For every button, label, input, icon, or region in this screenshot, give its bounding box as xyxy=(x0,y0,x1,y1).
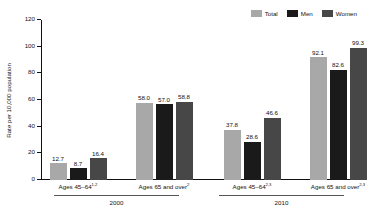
bar-value-label: 58.8 xyxy=(178,93,190,100)
category-label: Ages 65 and over2,3 xyxy=(302,182,371,193)
legend-label-men: Men xyxy=(301,10,313,17)
plot-area: 020406080100120 12.78.716.458.057.058.83… xyxy=(41,20,355,180)
bar-slot: 37.8 xyxy=(224,20,241,180)
bar-value-label: 99.3 xyxy=(352,39,364,46)
legend-label-total: Total xyxy=(265,10,278,17)
legend-entry-men: Men xyxy=(287,10,313,17)
bar-group: 58.057.058.8 xyxy=(128,20,200,180)
bar-slot: 57.0 xyxy=(156,20,173,180)
cat-period-2000: Ages 45–641,2Ages 65 and over2 xyxy=(42,182,200,193)
bar-group: 37.828.646.6 xyxy=(216,20,288,180)
y-axis-title-wrap: Rate per 10,000 population xyxy=(2,20,14,180)
bar-slot: 82.6 xyxy=(330,20,347,180)
bar-value-label: 57.0 xyxy=(158,96,170,103)
bar-women[interactable] xyxy=(90,158,107,180)
y-tick-label-40: 40 xyxy=(28,122,35,129)
period-name: 2010 xyxy=(275,199,289,207)
period-block-2000: 2000 xyxy=(42,195,191,215)
bar-slot: 92.1 xyxy=(310,20,327,180)
category-footnote-marker: 2,3 xyxy=(359,182,365,187)
legend-swatch-men xyxy=(287,10,298,17)
bar-groups: 12.78.716.458.057.058.837.828.646.692.18… xyxy=(42,20,355,180)
legend-swatch-women xyxy=(322,10,333,17)
y-tick-label-60: 60 xyxy=(28,95,35,102)
y-axis-title: Rate per 10,000 population xyxy=(5,63,12,138)
bar-value-label: 8.7 xyxy=(74,160,83,167)
y-tick-60: 60 xyxy=(37,99,41,100)
bar-value-label: 37.8 xyxy=(226,121,238,128)
bar-value-label: 82.6 xyxy=(332,61,344,68)
bar-women[interactable] xyxy=(264,118,281,180)
bar-slot: 99.3 xyxy=(350,20,367,180)
bar-slot: 46.6 xyxy=(264,20,281,180)
category-label: Ages 45–641,2 xyxy=(42,182,114,193)
cat-period-2010: Ages 45–642,3Ages 65 and over2,3 xyxy=(216,182,371,193)
category-footnote-marker: 2 xyxy=(187,182,189,187)
category-footnote-marker: 2,3 xyxy=(266,182,272,187)
bar-group: 12.78.716.4 xyxy=(42,20,114,180)
bar-women[interactable] xyxy=(176,102,193,180)
bar-men[interactable] xyxy=(244,142,261,180)
bar-period-2000: 12.78.716.458.057.058.8 xyxy=(42,20,200,180)
period-rule xyxy=(54,195,179,196)
legend-entry-total: Total xyxy=(251,10,278,17)
bar-slot: 28.6 xyxy=(244,20,261,180)
bar-value-label: 46.6 xyxy=(266,109,278,116)
category-label: Ages 65 and over2 xyxy=(128,182,200,193)
x-axis-period-labels: 20002010 xyxy=(42,195,356,215)
y-tick-40: 40 xyxy=(37,126,41,127)
bar-men[interactable] xyxy=(330,70,347,180)
bar-total[interactable] xyxy=(310,57,327,180)
y-tick-label-0: 0 xyxy=(32,175,35,182)
period-block-2010: 2010 xyxy=(207,195,356,215)
bar-slot: 58.0 xyxy=(136,20,153,180)
y-tick-120: 120 xyxy=(37,19,41,20)
bar-value-label: 12.7 xyxy=(52,155,64,162)
x-axis-category-labels: Ages 45–641,2Ages 65 and over2Ages 45–64… xyxy=(42,182,356,193)
bar-value-label: 28.6 xyxy=(246,133,258,140)
bar-women[interactable] xyxy=(350,48,367,180)
y-tick-80: 80 xyxy=(37,72,41,73)
y-tick-100: 100 xyxy=(37,46,41,47)
y-tick-label-100: 100 xyxy=(25,42,35,49)
category-label: Ages 45–642,3 xyxy=(216,182,288,193)
category-footnote-marker: 1,2 xyxy=(92,182,98,187)
bar-men[interactable] xyxy=(70,168,87,180)
legend-swatch-total xyxy=(251,10,262,17)
period-name: 2000 xyxy=(110,199,124,207)
bar-value-label: 92.1 xyxy=(312,49,324,56)
bar-period-2010: 37.828.646.692.182.699.3 xyxy=(216,20,371,180)
bar-value-label: 58.0 xyxy=(138,94,150,101)
legend-label-women: Women xyxy=(336,10,357,17)
bar-slot: 58.8 xyxy=(176,20,193,180)
bar-value-label: 16.4 xyxy=(92,150,104,157)
bar-total[interactable] xyxy=(136,103,153,180)
bar-men[interactable] xyxy=(156,104,173,180)
y-tick-label-120: 120 xyxy=(25,15,35,22)
bar-slot: 16.4 xyxy=(90,20,107,180)
period-rule xyxy=(219,195,344,196)
bar-slot: 12.7 xyxy=(50,20,67,180)
bar-slot: 8.7 xyxy=(70,20,87,180)
y-tick-0: 0 xyxy=(37,179,41,180)
bar-total[interactable] xyxy=(224,130,241,180)
bar-group: 92.182.699.3 xyxy=(302,20,371,180)
y-tick-20: 20 xyxy=(37,152,41,153)
chart-legend: Total Men Women xyxy=(251,10,357,17)
bar-total[interactable] xyxy=(50,163,67,180)
legend-entry-women: Women xyxy=(322,10,357,17)
y-tick-label-20: 20 xyxy=(28,148,35,155)
y-tick-label-80: 80 xyxy=(28,68,35,75)
